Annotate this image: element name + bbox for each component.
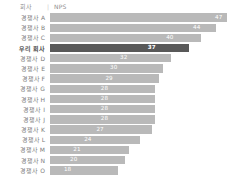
bar-row-label: 경쟁사 A [6,13,50,22]
bar-row: 경쟁사 G28 [6,84,227,93]
bar-row: 경쟁사 E30 [6,64,227,73]
bar-row-label: 경쟁사 M [6,145,50,154]
chart-header: 회사 | NPS [0,0,231,13]
bar-fill: 37 [50,44,189,52]
bar-row-label: 경쟁사 O [6,166,50,175]
nps-bar-chart: 회사 | NPS 경쟁사 A47경쟁사 B44경쟁사 C40우리 회사37경쟁사… [0,0,231,178]
bar-track: 18 [50,166,227,174]
bar-row-label: 경쟁사 F [6,74,50,83]
bar-row: 경쟁사 O18 [6,166,227,175]
bar-track: 28 [50,115,227,123]
bar-rows: 경쟁사 A47경쟁사 B44경쟁사 C40우리 회사37경쟁사 D32경쟁사 E… [0,13,231,175]
bar-value-label: 30 [110,66,117,72]
bar-row-label: 경쟁사 C [6,33,50,42]
bar-value-label: 28 [101,106,108,112]
bar-value-label: 18 [64,168,71,174]
bar-row-label: 경쟁사 G [6,84,50,93]
bar-row: 경쟁사 K27 [6,125,227,134]
header-value-label: NPS [54,3,67,10]
bar-fill: 30 [50,64,163,72]
bar-row-label: 경쟁사 N [6,156,50,165]
bar-fill: 28 [50,95,155,103]
bar-fill: 28 [50,115,155,123]
bar-row: 경쟁사 D32 [6,54,227,63]
bar-row: 우리 회사37 [6,44,227,53]
bar-value-label: 40 [166,35,173,41]
bar-fill: 32 [50,54,171,62]
bar-track: 40 [50,34,227,42]
bar-value-label: 28 [101,86,108,92]
bar-value-label: 24 [84,137,91,143]
bar-row-label: 경쟁사 D [6,54,50,63]
bar-track: 37 [50,44,227,52]
bar-row-label: 경쟁사 H [6,95,50,104]
bar-row: 경쟁사 A47 [6,13,227,22]
bar-row-label: 경쟁사 E [6,64,50,73]
bar-value-label: 21 [73,147,80,153]
bar-track: 21 [50,146,227,154]
bar-fill: 29 [50,74,159,82]
bar-track: 44 [50,24,227,32]
bar-row-label: 경쟁사 K [6,125,50,134]
header-category-label: 회사 [6,2,46,11]
bar-value-label: 28 [101,96,108,102]
bar-track: 28 [50,85,227,93]
bar-row: 경쟁사 C40 [6,33,227,42]
bar-value-label: 47 [215,15,222,21]
bar-row-label: 경쟁사 J [6,115,50,124]
bar-row: 경쟁사 L24 [6,135,227,144]
bar-fill: 27 [50,125,152,133]
bar-track: 20 [50,156,227,164]
header-separator: | [47,3,49,10]
bar-row-label: 경쟁사 L [6,135,50,144]
bar-fill: 40 [50,34,201,42]
bar-row: 경쟁사 F29 [6,74,227,83]
bar-fill: 28 [50,105,155,113]
bar-fill: 44 [50,24,216,32]
bar-track: 47 [50,13,227,21]
bar-track: 32 [50,54,227,62]
bar-fill: 21 [50,146,129,154]
bar-fill: 18 [50,166,118,174]
bar-track: 29 [50,74,227,82]
bar-fill: 47 [50,13,227,21]
bar-fill: 24 [50,136,140,144]
bar-row: 경쟁사 N20 [6,156,227,165]
bar-row: 경쟁사 I28 [6,105,227,114]
bar-track: 30 [50,64,227,72]
bar-row-label: 경쟁사 I [6,105,50,114]
bar-value-label: 28 [101,117,108,123]
bar-track: 27 [50,125,227,133]
bar-value-label: 32 [120,55,127,61]
bar-value-label: 44 [193,25,200,31]
bar-value-label: 20 [70,157,77,163]
bar-row-label: 경쟁사 B [6,23,50,32]
bar-track: 24 [50,136,227,144]
bar-row: 경쟁사 B44 [6,23,227,32]
bar-track: 28 [50,105,227,113]
bar-row: 경쟁사 J28 [6,115,227,124]
bar-value-label: 29 [105,76,112,82]
bar-fill: 20 [50,156,125,164]
bar-row-label: 우리 회사 [6,44,50,53]
bar-value-label: 37 [148,45,156,51]
bar-track: 28 [50,95,227,103]
bar-fill: 28 [50,85,155,93]
bar-value-label: 27 [96,127,103,133]
bar-row: 경쟁사 H28 [6,95,227,104]
bar-row: 경쟁사 M21 [6,145,227,154]
